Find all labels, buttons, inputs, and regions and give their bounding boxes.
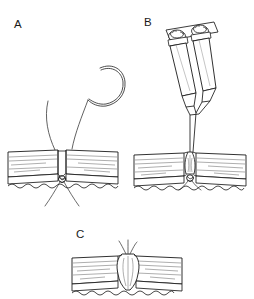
wound-closure-figure: A <box>0 0 254 299</box>
tissue-block-left-b <box>134 153 184 186</box>
panel-b-label: B <box>144 16 152 28</box>
tissue-block-right-b <box>196 153 246 186</box>
tissue-block-right <box>66 150 118 184</box>
tissue-block-left-c <box>72 256 118 291</box>
tissue-block-right-c <box>136 256 182 291</box>
tissue-block-left <box>8 150 58 184</box>
panel-c-label: C <box>76 228 84 240</box>
panel-a-label: A <box>14 18 22 30</box>
figure-canvas: A <box>0 0 254 299</box>
